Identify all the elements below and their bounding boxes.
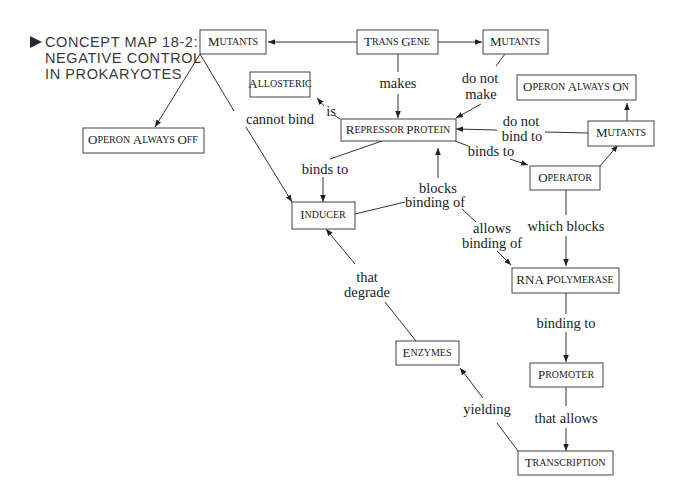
label-binds-to-inducer: binds to xyxy=(302,161,348,177)
title-line-1: CONCEPT MAP 18-2: xyxy=(45,34,198,50)
node-mutants-right[interactable]: MUTANTS xyxy=(588,121,654,146)
node-mutants-top-right[interactable]: MUTANTS xyxy=(483,30,548,54)
edge-bindsto-ind-a xyxy=(330,141,382,159)
title-line-3: IN PROKARYOTES xyxy=(45,66,182,82)
title-marker-icon xyxy=(30,36,42,48)
node-inducer[interactable]: INDUCER xyxy=(292,202,355,229)
edge-is-b xyxy=(317,98,324,106)
edge-allows-b xyxy=(497,251,511,265)
label-allows-2: binding of xyxy=(462,235,522,251)
svg-text:INDUCER: INDUCER xyxy=(300,207,346,222)
label-do-not-bind-1: do not xyxy=(503,113,540,129)
node-trans-gene[interactable]: TRANS GENE xyxy=(357,30,438,54)
edge-bindsto-op-b xyxy=(510,159,528,165)
svg-text:TRANSCRIPTION: TRANSCRIPTION xyxy=(525,455,606,470)
label-do-not-make-1: do not xyxy=(462,70,499,86)
concept-map: CONCEPT MAP 18-2: NEGATIVE CONTROL IN PR… xyxy=(0,0,685,504)
node-transcription[interactable]: TRANSCRIPTION xyxy=(518,451,613,475)
svg-text:TRANS GENE: TRANS GENE xyxy=(364,34,430,49)
svg-text:OPERON ALWAYS OFF: OPERON ALWAYS OFF xyxy=(88,132,198,147)
label-blocks-2: binding of xyxy=(405,194,465,210)
label-which-blocks: which blocks xyxy=(528,218,605,234)
label-that: that xyxy=(356,269,378,285)
label-yielding: yielding xyxy=(463,401,511,417)
edge-donotmake-b xyxy=(456,104,481,118)
svg-text:MUTANTS: MUTANTS xyxy=(596,125,646,140)
edge-degrade-a xyxy=(385,302,416,341)
svg-text:REPRESSOR PROTEIN: REPRESSOR PROTEIN xyxy=(346,122,451,137)
label-is: is xyxy=(326,103,336,119)
edge-yielding-a xyxy=(497,423,518,451)
map-title: CONCEPT MAP 18-2: NEGATIVE CONTROL IN PR… xyxy=(30,34,202,82)
svg-text:ENZYMES: ENZYMES xyxy=(402,345,451,360)
svg-text:MUTANTS: MUTANTS xyxy=(208,34,258,49)
edge-donotbind-a xyxy=(545,132,588,133)
node-repressor-protein[interactable]: REPRESSOR PROTEIN xyxy=(341,119,456,141)
edge-donotbind-b xyxy=(456,129,497,130)
edge-yielding-b xyxy=(460,368,483,398)
edge-donotmake-a xyxy=(496,54,505,66)
node-operator[interactable]: OPERATOR xyxy=(530,166,600,190)
label-cannot-bind: cannot bind xyxy=(246,111,315,127)
label-degrade: degrade xyxy=(344,284,390,300)
label-do-not-make-2: make xyxy=(465,86,496,102)
svg-text:RNA POLYMERASE: RNA POLYMERASE xyxy=(516,272,613,287)
node-promoter[interactable]: PROMOTER xyxy=(530,363,603,387)
edge-operator-mutants xyxy=(600,145,618,166)
edge-bindsto-op-a xyxy=(455,141,468,146)
edge-blocks-a xyxy=(355,202,405,214)
node-operon-always-off[interactable]: OPERON ALWAYS OFF xyxy=(83,128,204,153)
node-enzymes[interactable]: ENZYMES xyxy=(396,341,459,365)
svg-text:PROMOTER: PROMOTER xyxy=(538,367,594,382)
svg-text:MUTANTS: MUTANTS xyxy=(490,34,540,49)
title-line-2: NEGATIVE CONTROL xyxy=(45,50,202,66)
edge-degrade-b xyxy=(326,229,355,264)
svg-text:ALLOSTERIC: ALLOSTERIC xyxy=(248,76,312,91)
label-binding-to: binding to xyxy=(536,315,595,331)
node-mutants-left[interactable]: MUTANTS xyxy=(200,30,266,54)
label-binds-to-operator: binds to xyxy=(468,143,514,159)
node-allosteric[interactable]: ALLOSTERIC xyxy=(248,72,312,97)
label-do-not-bind-2: bind to xyxy=(502,128,543,144)
edge-cannotbind-b xyxy=(246,127,292,202)
edges xyxy=(155,42,627,451)
edge-cannotbind-a xyxy=(200,54,234,111)
label-allows-1: allows xyxy=(473,220,511,236)
node-rna-polymerase[interactable]: RNA POLYMERASE xyxy=(512,268,619,293)
svg-text:OPERATOR: OPERATOR xyxy=(538,170,592,185)
node-operon-always-on[interactable]: OPERON ALWAYS ON xyxy=(517,75,636,100)
label-that-allows: that allows xyxy=(534,410,598,426)
svg-text:OPERON ALWAYS ON: OPERON ALWAYS ON xyxy=(523,79,629,94)
label-makes: makes xyxy=(379,75,416,91)
